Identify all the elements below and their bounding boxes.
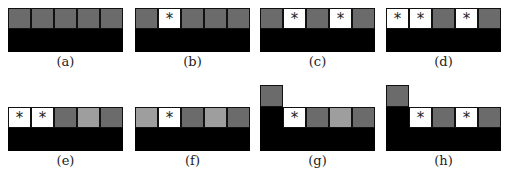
asterisk-marker: *	[463, 109, 471, 127]
grid-cell: *	[31, 107, 54, 128]
asterisk-marker: *	[166, 10, 174, 28]
grid-cell	[352, 107, 375, 128]
grid-cell	[432, 8, 455, 29]
grid-cell	[306, 8, 329, 29]
grid-cell	[181, 107, 204, 128]
black-base	[386, 29, 501, 52]
grid-cell: *	[8, 107, 31, 128]
asterisk-marker: *	[16, 109, 24, 127]
grid-cell	[478, 8, 501, 29]
grid-cell	[135, 8, 158, 29]
grid-cell	[432, 107, 455, 128]
grid-cell	[77, 107, 100, 128]
grid-cell	[260, 107, 283, 128]
panel-label: (f)	[135, 153, 250, 168]
panel-label: (e)	[8, 153, 123, 168]
black-base	[8, 128, 123, 151]
grid-cell	[181, 8, 204, 29]
black-base	[260, 29, 375, 52]
grid-cell	[306, 107, 329, 128]
panel-label: (b)	[135, 54, 250, 69]
grid-cell: *	[455, 107, 478, 128]
grid-cell	[135, 107, 158, 128]
panel-label: (c)	[260, 54, 375, 69]
asterisk-marker: *	[417, 10, 425, 28]
grid-cell	[352, 8, 375, 29]
panel-label: (d)	[386, 54, 501, 69]
asterisk-marker: *	[39, 109, 47, 127]
grid-cell	[100, 107, 123, 128]
grid-cell: *	[283, 8, 306, 29]
grid-cell: *	[158, 8, 181, 29]
grid-cell	[54, 8, 77, 29]
grid-cell: *	[283, 107, 306, 128]
grid-cell: *	[409, 107, 432, 128]
panel-label: (a)	[8, 54, 123, 69]
grid-cell: *	[409, 8, 432, 29]
grid-cell	[386, 107, 409, 128]
black-base	[135, 128, 250, 151]
grid-cell	[478, 107, 501, 128]
grid-cell	[329, 107, 352, 128]
grid-cell	[100, 8, 123, 29]
grid-cell: *	[386, 8, 409, 29]
grid-cell	[227, 107, 250, 128]
grid-cell	[204, 8, 227, 29]
panel-label: (h)	[386, 153, 501, 168]
asterisk-marker: *	[417, 109, 425, 127]
raised-block	[260, 85, 283, 107]
grid-cell: *	[158, 107, 181, 128]
grid-cell	[260, 8, 283, 29]
asterisk-marker: *	[166, 109, 174, 127]
panel-label: (g)	[260, 153, 375, 168]
grid-cell	[204, 107, 227, 128]
grid-cell: *	[455, 8, 478, 29]
grid-cell	[227, 8, 250, 29]
grid-cell	[54, 107, 77, 128]
asterisk-marker: *	[291, 10, 299, 28]
grid-cell: *	[329, 8, 352, 29]
asterisk-marker: *	[463, 10, 471, 28]
black-base	[8, 29, 123, 52]
grid-cell	[77, 8, 100, 29]
asterisk-marker: *	[394, 10, 402, 28]
asterisk-marker: *	[291, 109, 299, 127]
black-base	[135, 29, 250, 52]
asterisk-marker: *	[337, 10, 345, 28]
grid-cell	[8, 8, 31, 29]
raised-block	[386, 85, 409, 107]
grid-cell	[31, 8, 54, 29]
